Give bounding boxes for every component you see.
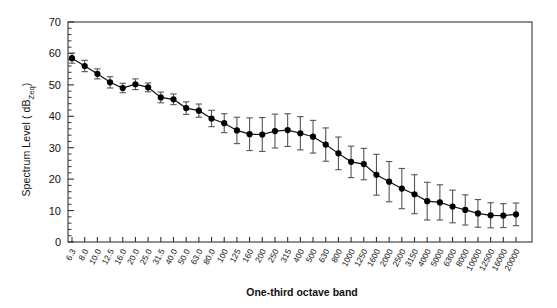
data-point bbox=[170, 96, 176, 102]
data-point bbox=[94, 71, 100, 77]
x-tick-label: 315 bbox=[278, 247, 294, 264]
data-point bbox=[310, 134, 316, 140]
data-point bbox=[399, 185, 405, 191]
y-tick-label: 70 bbox=[49, 16, 61, 28]
data-point bbox=[132, 81, 138, 87]
data-point bbox=[424, 198, 430, 204]
y-tick-label: 0 bbox=[55, 236, 61, 248]
x-tick-label: 250 bbox=[265, 247, 281, 264]
data-point bbox=[120, 85, 126, 91]
data-point bbox=[196, 108, 202, 114]
data-point bbox=[82, 63, 88, 69]
data-point bbox=[183, 105, 189, 111]
chart-canvas: 0102030405060706.38.010.012.516.020.025.… bbox=[0, 0, 557, 308]
data-point bbox=[221, 120, 227, 126]
y-tick-label: 20 bbox=[49, 173, 61, 185]
data-point bbox=[462, 207, 468, 213]
y-tick-label: 50 bbox=[49, 79, 61, 91]
x-axis-title: One-third octave band bbox=[72, 286, 532, 298]
x-tick-label: 6.3 bbox=[64, 247, 78, 262]
data-point bbox=[475, 210, 481, 216]
data-point bbox=[373, 172, 379, 178]
data-point bbox=[488, 212, 494, 218]
data-point bbox=[361, 161, 367, 167]
x-tick-label: 160 bbox=[240, 247, 256, 264]
data-point bbox=[348, 159, 354, 165]
data-points bbox=[69, 55, 519, 219]
error-bars bbox=[69, 53, 519, 228]
data-point bbox=[285, 127, 291, 133]
x-tick-label: 100 bbox=[215, 247, 231, 264]
y-tick-label: 60 bbox=[49, 47, 61, 59]
data-point bbox=[513, 211, 519, 217]
series-line bbox=[72, 58, 516, 215]
data-point bbox=[500, 213, 506, 219]
x-tick-label: 125 bbox=[227, 247, 243, 264]
x-tick-label: 500 bbox=[303, 247, 319, 264]
data-point bbox=[247, 131, 253, 137]
data-point bbox=[208, 115, 214, 121]
data-point bbox=[449, 203, 455, 209]
data-point bbox=[259, 131, 265, 137]
data-point bbox=[411, 191, 417, 197]
data-point bbox=[297, 130, 303, 136]
data-point bbox=[386, 179, 392, 185]
x-tick-label: 400 bbox=[291, 247, 307, 264]
x-tick-label: 80.0 bbox=[201, 247, 218, 266]
x-tick-label: 630 bbox=[316, 247, 332, 264]
chart-figure: Spectrum Level ( dBZeq) 0102030405060706… bbox=[0, 0, 557, 308]
y-tick-label: 40 bbox=[49, 110, 61, 122]
data-point bbox=[234, 127, 240, 133]
data-point bbox=[437, 199, 443, 205]
data-point bbox=[107, 79, 113, 85]
data-point bbox=[272, 128, 278, 134]
data-point bbox=[158, 94, 164, 100]
y-tick-label: 10 bbox=[49, 205, 61, 217]
y-tick-label: 30 bbox=[49, 142, 61, 154]
x-tick-label: 200 bbox=[253, 247, 269, 264]
data-point bbox=[145, 84, 151, 90]
data-point bbox=[335, 150, 341, 156]
data-point bbox=[323, 141, 329, 147]
data-point bbox=[69, 55, 75, 61]
